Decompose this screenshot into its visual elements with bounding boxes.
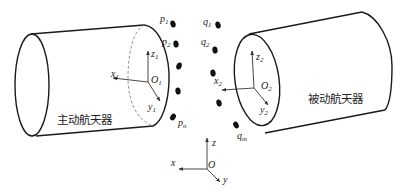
active-spacecraft-label: 主动航天器 [57, 113, 113, 127]
world-frame: x z O y [170, 137, 228, 185]
point-pn [169, 113, 177, 122]
point-q2 [212, 46, 218, 54]
z1-label: z1 [150, 48, 158, 61]
active-frame: x1 z1 O1 y1 [110, 48, 162, 114]
passive-spacecraft-label: 被动航天器 [308, 92, 364, 106]
q1-label: q1 [203, 16, 212, 29]
p1-label: p1 [159, 13, 169, 26]
o1-label: O1 [151, 74, 162, 87]
passive-feature-points: q1 q2 qm [201, 16, 247, 143]
x2-label: x2 [213, 75, 222, 88]
point-p2 [173, 40, 179, 48]
z2-axis-arrow [252, 51, 254, 88]
q2-label: q2 [201, 36, 210, 49]
point-p3 [175, 62, 182, 71]
point-q1 [215, 21, 222, 29]
point-p1 [170, 20, 177, 28]
x1-label: x1 [110, 68, 119, 81]
z2-label: z2 [255, 51, 264, 64]
point-q4 [216, 99, 223, 107]
y1-label: y1 [147, 101, 156, 114]
world-origin-label: O [208, 159, 215, 170]
world-z-label: z [211, 137, 216, 148]
world-x-label: x [170, 157, 176, 168]
qm-label: qm [237, 130, 247, 143]
point-p4 [175, 87, 181, 95]
x2-axis-arrow [222, 88, 254, 90]
y2-label: y2 [259, 104, 268, 117]
docking-diagram: x1 z1 O1 y1 主动航天器 p1 p2 pn q1 q2 qm [0, 0, 401, 196]
point-qm [232, 121, 240, 130]
p2-label: p2 [161, 36, 171, 49]
world-y-label: y [222, 174, 228, 185]
pn-label: pn [177, 117, 187, 130]
y-axis-arrow [207, 169, 220, 182]
o2-label: O2 [261, 80, 272, 93]
